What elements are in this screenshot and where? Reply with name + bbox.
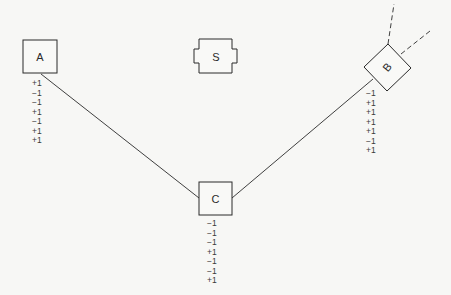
node-c-value: −1 (207, 237, 217, 247)
node-c: C (199, 182, 232, 215)
edge-c-b (232, 79, 373, 198)
node-c-label: C (212, 193, 220, 205)
node-a-value: +1 (32, 135, 42, 145)
node-c-value: −1 (207, 218, 217, 228)
node-c-value: −1 (207, 266, 217, 276)
node-a-value: +1 (32, 107, 42, 117)
node-a-value: −1 (32, 116, 42, 126)
node-a-value: +1 (32, 126, 42, 136)
edge-b-dashed-up (388, 4, 394, 44)
node-b-value: +1 (366, 145, 376, 155)
node-b-value: +1 (366, 98, 376, 108)
node-c-value: +1 (207, 275, 217, 285)
node-b-value: +1 (366, 117, 376, 127)
node-a-value: −1 (32, 88, 42, 98)
node-a: A (23, 40, 57, 73)
node-a-label: A (36, 51, 44, 63)
node-c-values: −1 −1 −1 +1 −1 −1 +1 (207, 218, 217, 285)
node-s: S (194, 39, 237, 73)
node-b-value: −1 (366, 136, 376, 146)
node-c-value: −1 (207, 256, 217, 266)
edge-b-dashed-right (401, 31, 430, 54)
node-b: B (364, 44, 411, 91)
node-a-values: +1 −1 −1 +1 −1 +1 +1 (32, 78, 42, 145)
node-a-value: +1 (32, 78, 42, 88)
node-b-values: −1 +1 +1 +1 +1 −1 +1 (366, 88, 376, 155)
node-b-value: −1 (366, 88, 376, 98)
node-c-value: +1 (207, 247, 217, 257)
node-a-value: −1 (32, 97, 42, 107)
node-b-value: +1 (366, 107, 376, 117)
node-b-value: +1 (366, 126, 376, 136)
edge-a-c (41, 74, 199, 198)
node-s-label: S (212, 51, 219, 63)
network-diagram: A +1 −1 −1 +1 −1 +1 +1 S B −1 +1 +1 +1 +… (0, 0, 451, 295)
node-c-value: −1 (207, 228, 217, 238)
